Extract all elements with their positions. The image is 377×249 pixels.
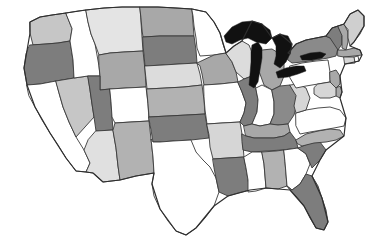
state-KS[interactable]: Kansas: [147, 85, 205, 117]
us-choropleth-map-figure: Washington Oregon California Nevada Idah…: [0, 0, 377, 249]
state-WY[interactable]: Wyoming: [99, 51, 146, 90]
state-MO[interactable]: Missouri: [204, 82, 246, 124]
state-LA[interactable]: Louisiana: [213, 157, 250, 196]
state-AR[interactable]: Arkansas: [207, 122, 244, 159]
state-NM[interactable]: New Mexico: [113, 121, 154, 180]
state-SD[interactable]: South Dakota: [143, 36, 197, 66]
state-ND[interactable]: North Dakota: [140, 7, 194, 37]
state-OK[interactable]: Oklahoma: [149, 114, 209, 142]
us-map-svg: Washington Oregon California Nevada Idah…: [0, 0, 377, 249]
state-AL[interactable]: Alabama: [262, 150, 287, 189]
state-CO[interactable]: Colorado: [110, 87, 149, 123]
state-MD[interactable]: Maryland: [314, 82, 336, 98]
state-OR[interactable]: Oregon: [24, 41, 74, 85]
state-NE[interactable]: Nebraska: [145, 63, 202, 89]
